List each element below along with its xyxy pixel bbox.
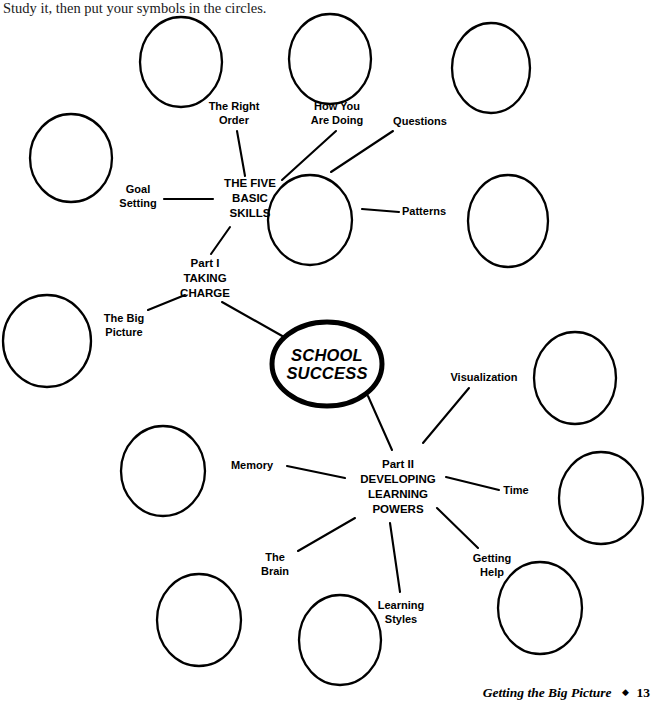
circle-five-basic-skills[interactable] — [268, 175, 352, 265]
hub-label-five-basic-skills: THE FIVE BASIC SKILLS — [224, 176, 276, 221]
branch-label-visualization: Visualization — [450, 371, 517, 385]
branch-label-the-right-order: The Right Order — [209, 100, 260, 127]
worksheet-page: Study it, then put your symbols in the c… — [0, 0, 658, 711]
hub-label-part-one-taking-charge: Part I TAKING CHARGE — [180, 256, 230, 301]
branch-label-patterns: Patterns — [402, 205, 446, 219]
connector-right-order — [237, 131, 245, 176]
connector-time — [446, 477, 499, 490]
connector-questions — [331, 131, 393, 172]
branch-label-questions: Questions — [393, 115, 447, 129]
circle-the-brain[interactable] — [157, 574, 241, 666]
branch-label-getting-help: Getting Help — [473, 552, 512, 579]
connector-brain — [298, 518, 355, 551]
branch-label-how-you-are-doing: How You Are Doing — [311, 100, 364, 127]
connector-memory — [287, 466, 345, 478]
connector-getting-help — [437, 508, 478, 548]
connector-visualization — [423, 388, 469, 443]
branch-label-time: Time — [503, 484, 528, 498]
connector-center-to-part-two — [368, 396, 392, 450]
school-success-label: SCHOOL SUCCESS — [286, 346, 367, 382]
connector-how-you-are-doing — [282, 131, 336, 180]
connector-skills-to-part-one — [211, 227, 230, 254]
branch-label-goal-setting: Goal Setting — [119, 183, 156, 210]
circle-patterns[interactable] — [468, 175, 548, 267]
circle-visualization[interactable] — [534, 332, 616, 424]
circle-goal-setting[interactable] — [30, 114, 112, 202]
footer-page-number: 13 — [637, 685, 651, 700]
circle-memory[interactable] — [121, 426, 205, 516]
circle-questions[interactable] — [452, 23, 530, 113]
circle-the-big-picture[interactable] — [3, 295, 91, 387]
hub-label-part-two-developing-learning-powers: Part II DEVELOPING LEARNING POWERS — [360, 457, 435, 517]
page-footer: Getting the Big Picture◆13 — [483, 685, 650, 701]
branch-label-learning-styles: Learning Styles — [378, 599, 424, 626]
branch-label-memory: Memory — [231, 459, 273, 473]
footer-diamond-icon: ◆ — [622, 687, 629, 697]
circle-the-right-order[interactable] — [140, 17, 222, 107]
circle-time[interactable] — [559, 452, 643, 544]
connector-learning-styles — [390, 523, 400, 592]
circle-how-you-are-doing[interactable] — [289, 14, 371, 104]
connector-patterns — [362, 209, 399, 212]
footer-title: Getting the Big Picture — [483, 685, 612, 700]
connector-part-one-to-center — [222, 302, 284, 337]
branch-label-the-brain: The Brain — [261, 551, 289, 578]
circle-learning-styles[interactable] — [299, 595, 381, 685]
branch-label-the-big-picture: The Big Picture — [104, 312, 144, 339]
